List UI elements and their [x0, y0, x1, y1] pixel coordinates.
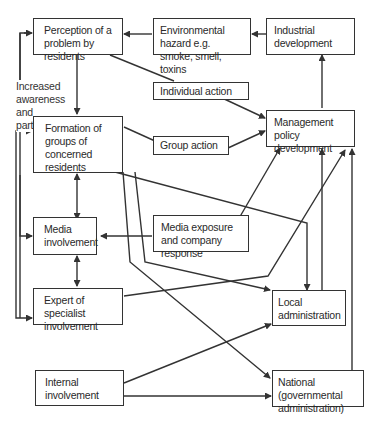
media-exposure-box: Media exposure and company response — [153, 215, 249, 252]
national-administration-label: National (governmental administration) — [278, 376, 344, 414]
environmental-hazard-box: Environmental hazard e.g. smoke, smell, … — [153, 18, 251, 55]
formation-of-groups-label: Formation of groups of concerned residen… — [45, 122, 102, 173]
individual-action-label: Individual action — [160, 85, 232, 97]
group-action-label: Group action — [160, 139, 218, 151]
industrial-development-label: Industrial development — [274, 24, 332, 49]
industrial-development-box: Industrial development — [266, 18, 355, 55]
local-administration-label: Local administration — [278, 296, 341, 321]
expert-involvement-box: Expert of specialist involvement — [33, 288, 123, 325]
internal-involvement-box: Internal involvement — [35, 370, 124, 406]
management-policy-label: Management policy development — [274, 116, 333, 154]
connector-lines — [0, 0, 374, 421]
individual-action-box: Individual action — [153, 82, 249, 100]
group-action-box: Group action — [153, 136, 229, 155]
management-policy-box: Management policy development — [266, 110, 355, 147]
expert-involvement-label: Expert of specialist involvement — [44, 294, 98, 332]
local-administration-box: Local administration — [272, 290, 346, 326]
perception-box: Perception of a problem by residents — [33, 18, 123, 55]
media-involvement-box: Media involvement — [33, 217, 97, 255]
formation-of-groups-box: Formation of groups of concerned residen… — [33, 116, 123, 173]
media-involvement-label: Media involvement — [44, 223, 98, 248]
internal-involvement-label: Internal involvement — [45, 376, 99, 401]
national-administration-box: National (governmental administration) — [272, 370, 364, 407]
